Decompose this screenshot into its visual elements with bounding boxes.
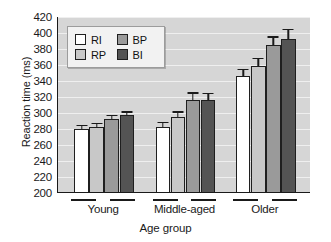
legend-row: RP BI (75, 47, 158, 62)
group-underline (71, 199, 96, 201)
bar (74, 129, 89, 193)
y-axis-tick-label: 260 (12, 139, 52, 151)
bar (171, 117, 186, 193)
legend-entry-bp: BP (117, 34, 159, 46)
bar (120, 115, 135, 193)
legend-swatch-icon (117, 49, 128, 60)
legend-entry-rp: RP (75, 49, 117, 61)
group-underline (153, 199, 178, 201)
bar (281, 39, 296, 193)
y-axis-tick-label: 280 (12, 123, 52, 135)
group-underline (191, 199, 216, 201)
error-bar-cap (253, 58, 264, 59)
y-axis-tick-label: 400 (12, 27, 52, 39)
error-bar-cap (172, 111, 183, 112)
error-bar-cap (283, 29, 294, 30)
group-underline (110, 199, 135, 201)
bar (266, 45, 281, 193)
x-axis-tick-label: Middle-aged (154, 203, 215, 215)
legend-swatch-icon (75, 34, 86, 45)
error-bar-cap (157, 122, 168, 123)
y-axis-tick-label: 320 (12, 91, 52, 103)
legend: RI BP RP BI (67, 26, 165, 68)
y-axis-tick-label: 220 (12, 171, 52, 183)
error-bar-stem (288, 29, 289, 39)
y-axis-tick-label: 240 (12, 155, 52, 167)
y-axis-tick-label: 200 (12, 187, 52, 199)
legend-row: RI BP (75, 32, 158, 47)
error-bar-cap (188, 92, 199, 93)
group-underline (233, 199, 258, 201)
legend-entry-bi: BI (117, 49, 159, 61)
legend-swatch-icon (75, 49, 86, 60)
bar (236, 76, 251, 193)
error-bar-cap (268, 36, 279, 37)
y-axis-tick-label: 380 (12, 43, 52, 55)
x-axis-title: Age group (0, 222, 331, 234)
bar (201, 100, 216, 193)
bar (104, 119, 119, 193)
error-bar-cap (203, 93, 214, 94)
error-bar-cap (238, 69, 249, 70)
legend-entry-ri: RI (75, 34, 117, 46)
x-axis-tick-label: Older (251, 203, 278, 215)
legend-label: BP (133, 34, 147, 46)
bar (156, 127, 171, 193)
y-axis-tick-label: 360 (12, 59, 52, 71)
bar (186, 100, 201, 193)
bar (89, 127, 104, 193)
legend-label: RP (91, 49, 106, 61)
error-bar-cap (76, 125, 87, 126)
error-bar-cap (106, 115, 117, 116)
error-bar-cap (121, 111, 132, 112)
legend-swatch-icon (117, 34, 128, 45)
y-axis-tick-labels: 200220240260280300320340360380400420 (0, 0, 56, 242)
reaction-time-bar-chart: Reaction time (ms) 200220240260280300320… (0, 0, 331, 242)
x-axis-tick-label: Young (88, 203, 119, 215)
group-underline (272, 199, 297, 201)
y-axis-tick-label: 420 (12, 11, 52, 23)
legend-label: RI (91, 34, 102, 46)
error-bar-cap (91, 123, 102, 124)
bar (251, 66, 266, 193)
y-axis-tick-label: 340 (12, 75, 52, 87)
legend-label: BI (133, 49, 143, 61)
y-axis-tick-label: 300 (12, 107, 52, 119)
